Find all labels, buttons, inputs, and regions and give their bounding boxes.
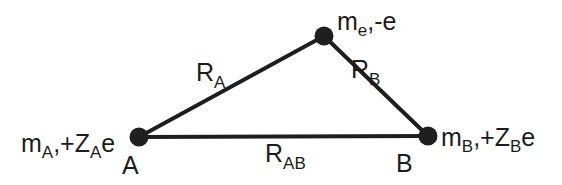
node-b-name: B	[396, 149, 413, 177]
node-a-dot	[130, 128, 149, 147]
edge-rb-label: RB	[351, 55, 380, 89]
edge-rab-label: RAB	[265, 139, 306, 173]
edge-ra	[139, 36, 324, 137]
electron-label: me,-e	[337, 7, 396, 40]
node-electron-dot	[315, 27, 334, 46]
edge-ra-label: RA	[196, 58, 226, 92]
triangle-diagram: me,-e mA,+ZAe A mB,+ZBe B RA RB RAB	[0, 0, 562, 185]
nucleus-b-label: mB,+ZBe	[441, 123, 535, 156]
node-b-dot	[419, 127, 438, 146]
node-a-name: A	[122, 151, 139, 179]
nucleus-a-label: mA,+ZAe	[21, 129, 115, 162]
edge-rab	[139, 136, 428, 137]
